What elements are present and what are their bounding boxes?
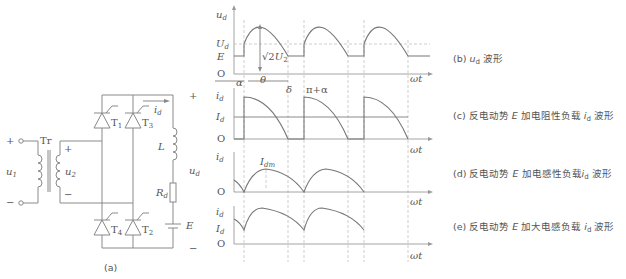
t1-label: T1 <box>111 117 122 130</box>
e-label: E <box>185 220 194 231</box>
waveform-id-resistive: id Id O ωt (c) 反电动势 E 加电阻性负载 id 波形 <box>215 88 614 155</box>
thyristor-t1: T1 <box>94 106 122 130</box>
svg-text:ud: ud <box>216 9 227 22</box>
svg-text:(b) ud 波形: (b) ud 波形 <box>453 53 503 66</box>
circuit-caption: (a) <box>104 262 117 273</box>
svg-text:ωt: ωt <box>410 73 423 84</box>
t4-label: T4 <box>111 224 123 237</box>
waveform-id-large-inductance: id Id O ωt (e) 反电动势 E 加大电感负载 id 波形 <box>215 206 614 261</box>
svg-text:Id: Id <box>215 223 225 236</box>
svg-text:id: id <box>216 151 224 164</box>
terminal-bottom <box>19 201 23 205</box>
svg-text:id: id <box>216 206 224 219</box>
svg-text:α: α <box>236 77 243 88</box>
svg-text:(e) 反电动势 E 加大电感负载 id 波形: (e) 反电动势 E 加大电感负载 id 波形 <box>453 221 614 234</box>
rd-label: Rd <box>155 187 169 200</box>
primary-coil <box>38 141 42 203</box>
svg-text:O: O <box>217 133 225 144</box>
ud-minus: − <box>189 243 197 254</box>
u1-label: u1 <box>6 166 17 179</box>
svg-text:O: O <box>217 186 225 197</box>
t2-label: T2 <box>142 224 153 237</box>
u2-label: u2 <box>65 166 76 179</box>
rectifier-diagram: + − u1 Tr + − u2 T1 <box>0 0 626 279</box>
svg-text:ωt: ωt <box>410 250 423 261</box>
l-label: L <box>157 141 165 152</box>
svg-text:(d) 反电动势 E 加电感性负载id 波形: (d) 反电动势 E 加电感性负载id 波形 <box>453 168 612 181</box>
plus-sign: + <box>6 135 14 146</box>
terminal-top <box>19 139 23 143</box>
minus-sign: − <box>6 197 14 208</box>
svg-text:(c) 反电动势 E 加电阻性负载 id 波形: (c) 反电动势 E 加电阻性负载 id 波形 <box>453 110 614 123</box>
secondary-coil <box>56 141 60 203</box>
svg-text:ωt: ωt <box>410 144 423 155</box>
svg-text:Idm: Idm <box>259 156 275 169</box>
svg-text:Ud: Ud <box>216 38 229 51</box>
sec-plus: + <box>64 143 72 154</box>
inductor-l <box>173 128 177 160</box>
svg-text:π+α: π+α <box>306 84 328 95</box>
waveform-id-inductive: id Idm O ωt (d) 反电动势 E 加电感性负载id 波形 <box>216 151 612 207</box>
transformer-label: Tr <box>40 135 52 146</box>
t3-label: T3 <box>142 117 153 130</box>
id-label: id <box>154 104 162 117</box>
ud-plus: + <box>189 90 197 101</box>
sec-minus: − <box>64 189 72 200</box>
waveform-panels: ud Ud E O √2U2 α θ δ π+α ωt (b) ud 波形 id… <box>215 5 614 262</box>
svg-text:id: id <box>216 90 224 103</box>
svg-text:ωt: ωt <box>410 196 423 207</box>
thyristor-t4: T4 <box>94 213 123 237</box>
ud-label: ud <box>189 165 200 178</box>
svg-text:E: E <box>216 51 225 62</box>
thyristor-t2: T2 <box>125 213 153 237</box>
thyristor-t3: T3 <box>125 106 153 130</box>
svg-text:O: O <box>217 238 225 249</box>
svg-text:δ: δ <box>286 84 292 95</box>
circuit-schematic: + − u1 Tr + − u2 T1 <box>6 90 200 273</box>
waveform-ud: ud Ud E O √2U2 α θ δ π+α ωt (b) ud 波形 <box>215 5 503 95</box>
svg-text:O: O <box>217 68 225 79</box>
resistor-rd <box>170 183 176 202</box>
svg-text:√2U2: √2U2 <box>262 51 288 64</box>
svg-text:θ: θ <box>260 74 266 85</box>
svg-text:Id: Id <box>215 111 225 124</box>
